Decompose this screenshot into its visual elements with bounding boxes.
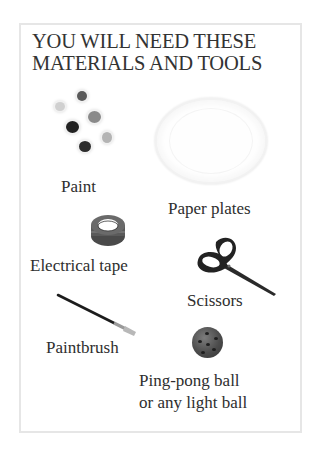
label-line: Paintbrush <box>46 337 119 359</box>
item-label-electrical-tape: Electrical tape <box>30 255 128 277</box>
paint-pots-icon <box>0 0 1 1</box>
page-title: YOU WILL NEED THESE MATERIALS AND TOOLS <box>32 30 262 74</box>
label-line: Ping-pong ball <box>139 370 247 392</box>
item-label-paintbrush: Paintbrush <box>46 337 119 359</box>
item-label-paint: Paint <box>61 176 96 198</box>
label-line: or any light ball <box>139 392 247 414</box>
paintbrush-icon <box>56 293 140 337</box>
title-line-2: MATERIALS AND TOOLS <box>32 52 262 74</box>
label-line: Paint <box>61 176 96 198</box>
label-line: Scissors <box>187 290 243 312</box>
paper-plate-icon <box>155 98 267 184</box>
label-line: Paper plates <box>168 198 251 220</box>
scissors-icon <box>196 234 280 298</box>
ball-icon <box>192 327 223 358</box>
ball-hole <box>201 351 205 354</box>
item-label-ping-pong-ball: Ping-pong ball or any light ball <box>139 370 247 414</box>
title-line-1: YOU WILL NEED THESE <box>32 30 262 52</box>
ball-hole <box>214 337 218 340</box>
ball-hole <box>206 343 210 346</box>
item-label-paper-plates: Paper plates <box>168 198 251 220</box>
ball-hole <box>205 332 209 335</box>
item-label-scissors: Scissors <box>187 290 243 312</box>
plate-rim <box>169 108 253 174</box>
label-line: Electrical tape <box>30 255 128 277</box>
tape-roll-icon <box>90 212 126 248</box>
ball-hole <box>212 348 216 351</box>
ball-hole <box>198 340 202 343</box>
